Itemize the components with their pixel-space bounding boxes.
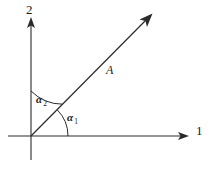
vector-diagram-figure: 1 2 A α1 α2 [0,0,212,169]
angle-alpha-1-label: α1 [67,111,78,126]
vector-a-line [31,17,149,136]
angle-alpha-1-subscript: 1 [74,117,78,126]
angle-alpha-2-subscript: 2 [43,99,47,108]
angle-alpha-1-symbol: α [67,111,74,123]
angle-alpha-2-label: α2 [36,93,47,108]
angle-alpha-2-symbol: α [36,93,43,105]
axis-2-label: 2 [26,2,33,17]
vector-a-label: A [105,63,114,77]
vector-diagram-canvas: 1 2 A α1 α2 [0,0,212,169]
axis-1-label: 1 [196,123,203,138]
